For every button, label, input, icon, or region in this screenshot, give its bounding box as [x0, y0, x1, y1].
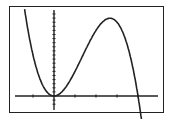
function-curve: [25, 9, 142, 119]
graph-plot: [0, 0, 172, 119]
axes: [15, 10, 158, 110]
